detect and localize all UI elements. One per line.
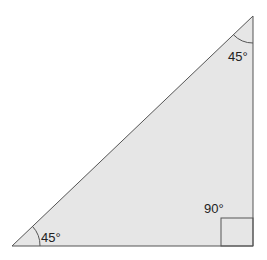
right-angle-label: 90°: [204, 201, 224, 216]
triangle-diagram: 45° 45° 90°: [0, 0, 267, 260]
bottom-left-angle-label: 45°: [41, 230, 61, 245]
top-angle-label: 45°: [228, 49, 248, 64]
